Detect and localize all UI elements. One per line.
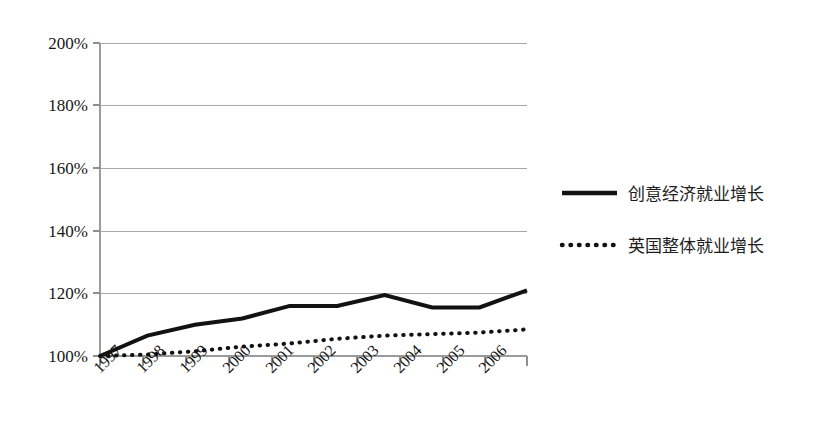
y-tick-label-120: 120% bbox=[48, 284, 88, 303]
y-tick-label-140: 140% bbox=[48, 222, 88, 241]
chart-container: 200% 180% 160% 140% 120% 100% 1997 1998 … bbox=[0, 0, 819, 446]
line-chart-figure: 200% 180% 160% 140% 120% 100% 1997 1998 … bbox=[0, 0, 819, 446]
y-tick-label-160: 160% bbox=[48, 159, 88, 178]
y-tick-label-200: 200% bbox=[48, 34, 88, 53]
y-tick-label-180: 180% bbox=[48, 96, 88, 115]
y-tick-label-100: 100% bbox=[48, 347, 88, 366]
chart-background bbox=[0, 0, 819, 446]
legend-label-uk-overall: 英国整体就业增长 bbox=[628, 237, 764, 256]
legend-label-creative-economy: 创意经济就业增长 bbox=[628, 185, 764, 204]
